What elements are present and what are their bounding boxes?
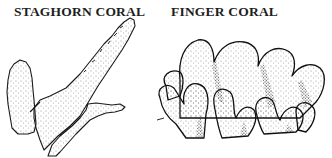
coral-illustrations (0, 0, 332, 158)
staghorn-coral-drawing (7, 18, 135, 156)
finger-coral-drawing (157, 40, 324, 138)
